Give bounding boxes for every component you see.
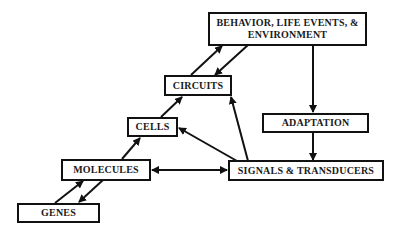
arrow-cells-to-circuits [161,97,182,117]
arrow-molecules-to-genes [79,180,103,202]
node-molecules: MOLECULES [61,159,151,181]
flow-diagram: BEHAVIOR, LIFE EVENTS, & ENVIRONMENT CIR… [0,0,395,236]
node-adaptation: ADAPTATION [262,113,369,133]
node-genes: GENES [17,203,100,223]
node-signals: SIGNALS & TRANSDUCERS [228,160,384,181]
node-cells: CELLS [127,117,178,137]
arrow-circuits-to-behavior [191,46,222,75]
node-circuits: CIRCUITS [164,75,232,96]
node-behavior: BEHAVIOR, LIFE EVENTS, & ENVIRONMENT [208,12,367,46]
arrow-molecules-to-cells [122,138,140,159]
arrow-genes-to-molecules [55,181,83,203]
arrow-behavior-to-circuits [215,45,248,75]
arrow-signals-to-circuits [231,97,248,161]
arrow-signals-to-cells [179,128,237,161]
